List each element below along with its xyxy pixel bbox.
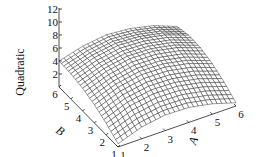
a-tick <box>234 104 236 106</box>
b-tick <box>94 121 96 123</box>
z-tick-label: 2 <box>53 68 59 80</box>
a-tick-label: 3 <box>167 133 173 145</box>
a-tick-label: 6 <box>238 108 244 120</box>
b-tick-label: 1 <box>111 148 117 157</box>
b-tick-label: 2 <box>99 136 105 148</box>
b-tick-label: 6 <box>52 88 58 100</box>
a-tick-label: 2 <box>144 141 150 153</box>
surface-plot: 24681012123456123456 Quadratic A B <box>0 0 256 157</box>
b-tick-label: 3 <box>88 124 94 136</box>
b-tick <box>83 109 85 111</box>
a-tick <box>140 137 142 139</box>
b-tick-label: 5 <box>64 100 70 112</box>
a-tick-label: 4 <box>191 124 197 136</box>
a-tick <box>210 112 212 114</box>
z-tick-label: 8 <box>53 29 59 41</box>
z-tick-label: 12 <box>47 3 58 15</box>
surface-mesh <box>59 26 236 144</box>
a-tick-label: 5 <box>215 116 221 128</box>
a-tick <box>116 145 118 147</box>
z-tick-label: 10 <box>47 16 59 28</box>
a-tick <box>187 120 189 122</box>
b-tick <box>106 133 108 135</box>
y-axis-title: B <box>53 123 68 139</box>
z-tick-label: 4 <box>53 55 59 67</box>
z-axis-title: Quadratic <box>13 48 27 95</box>
z-tick-label: 6 <box>53 42 59 54</box>
a-tick-label: 1 <box>120 149 126 157</box>
b-tick <box>71 97 73 99</box>
b-tick-label: 4 <box>76 112 82 124</box>
a-tick <box>163 129 165 131</box>
